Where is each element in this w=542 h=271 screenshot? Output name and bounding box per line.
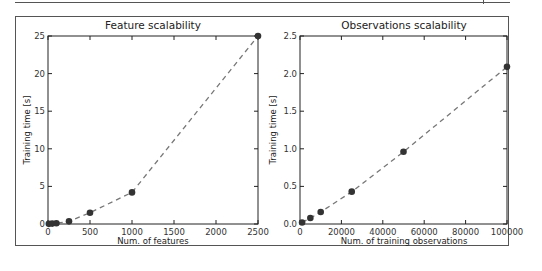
series-line xyxy=(302,67,507,223)
y-axis-ticks: 0.00.51.01.52.02.5 xyxy=(283,31,507,229)
x-tick-label: 0 xyxy=(297,227,302,237)
chart-observations-scalability: Observations scalability 0.00.51.01.52.0… xyxy=(268,19,523,246)
x-tick-label: 0 xyxy=(45,227,50,237)
y-tick-label: 5 xyxy=(40,181,45,191)
y-tick-label: 0.0 xyxy=(283,219,297,229)
data-point xyxy=(348,188,355,195)
x-axis-ticks: 05001000150020002500 xyxy=(45,36,269,237)
x-axis-ticks: 020000400006000080000100000 xyxy=(297,36,523,237)
data-series xyxy=(46,33,262,227)
data-point xyxy=(307,215,314,222)
y-tick-label: 10 xyxy=(34,144,45,154)
chart-feature-scalability: Feature scalability 0510152025 050010001… xyxy=(22,19,269,246)
y-axis-label: Training time [s] xyxy=(22,95,32,165)
data-point xyxy=(317,209,324,216)
y-tick-label: 1.5 xyxy=(283,106,297,116)
data-point xyxy=(129,189,136,196)
y-tick-label: 15 xyxy=(34,106,45,116)
x-tick-label: 2500 xyxy=(247,227,269,237)
plot-area xyxy=(48,36,258,224)
y-tick-label: 2.5 xyxy=(283,31,297,41)
y-tick-label: 20 xyxy=(34,69,45,79)
data-point xyxy=(504,64,511,71)
y-tick-label: 0.5 xyxy=(283,181,297,191)
figure: Feature scalability 0510152025 050010001… xyxy=(0,0,542,271)
x-tick-label: 100000 xyxy=(491,227,523,237)
data-point xyxy=(66,218,73,225)
data-point xyxy=(255,33,262,40)
data-point xyxy=(53,220,60,227)
x-axis-label: Num. of training observations xyxy=(341,236,468,246)
y-tick-label: 0 xyxy=(40,219,45,229)
x-axis-label: Num. of features xyxy=(117,236,189,246)
chart-title: Feature scalability xyxy=(105,19,201,31)
y-tick-label: 1.0 xyxy=(283,144,297,154)
y-tick-label: 2.0 xyxy=(283,69,297,79)
y-axis-label: Training time [s] xyxy=(268,95,278,165)
series-line xyxy=(49,36,258,224)
data-point xyxy=(87,209,94,216)
x-tick-label: 500 xyxy=(82,227,98,237)
data-point xyxy=(299,219,306,226)
chart-title: Observations scalability xyxy=(341,19,467,31)
data-series xyxy=(299,64,511,226)
data-point xyxy=(400,149,407,156)
plot-area xyxy=(300,36,507,224)
y-tick-label: 25 xyxy=(34,31,45,41)
x-tick-label: 2000 xyxy=(205,227,227,237)
y-axis-ticks: 0510152025 xyxy=(34,31,258,229)
